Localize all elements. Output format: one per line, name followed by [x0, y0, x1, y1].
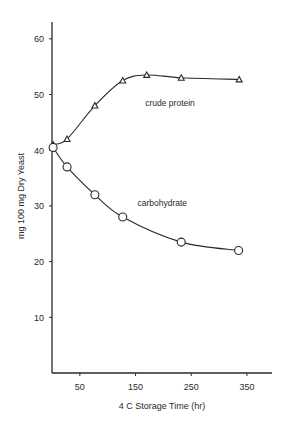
crude-protein-label: crude protein: [145, 98, 195, 108]
y-tick-label: 10: [34, 313, 44, 323]
circle-marker-icon: [91, 191, 99, 199]
circle-marker-icon: [49, 143, 57, 151]
chart: 102030405060501502503504 C Storage Time …: [0, 0, 284, 429]
y-tick-label: 60: [34, 34, 44, 44]
labels-layer: crude proteincarbohydrate: [137, 98, 195, 208]
crude-protein-line: [53, 75, 239, 145]
y-tick-label: 40: [34, 146, 44, 156]
circle-marker-icon: [177, 238, 185, 246]
y-tick-label: 50: [34, 90, 44, 100]
axes: 102030405060501502503504 C Storage Time …: [16, 22, 272, 411]
x-axis-title: 4 C Storage Time (hr): [119, 401, 206, 411]
circle-marker-icon: [63, 163, 71, 171]
circle-marker-icon: [119, 213, 127, 221]
triangle-marker-icon: [120, 78, 126, 83]
x-tick-label: 50: [75, 382, 85, 392]
x-tick-label: 250: [184, 382, 199, 392]
carbohydrate-label: carbohydrate: [137, 198, 187, 208]
circle-marker-icon: [235, 246, 243, 254]
triangle-marker-icon: [144, 72, 150, 77]
triangle-marker-icon: [178, 75, 184, 80]
x-tick-label: 350: [239, 382, 254, 392]
y-tick-label: 30: [34, 201, 44, 211]
y-axis-title: mg 100 mg Dry Yeast: [16, 152, 26, 239]
triangle-marker-icon: [236, 76, 242, 81]
x-tick-label: 150: [128, 382, 143, 392]
y-tick-label: 20: [34, 257, 44, 267]
